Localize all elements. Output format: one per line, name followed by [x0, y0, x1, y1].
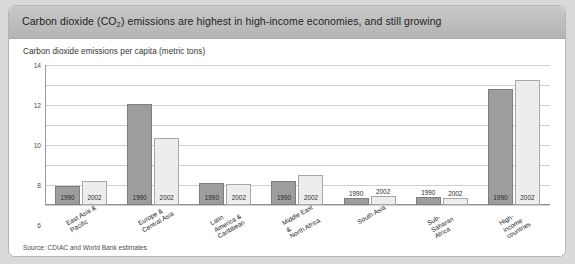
y-axis-tick-label: 8	[37, 182, 41, 189]
bar-2002[interactable]: 2002	[515, 80, 540, 205]
bar-2002[interactable]: 2002	[298, 175, 323, 205]
bar-1990[interactable]: 1990	[127, 104, 152, 205]
plot-area: 02468101214 1990200219902002199020021990…	[45, 65, 550, 205]
bar-1990[interactable]: 1990	[271, 181, 296, 205]
x-axis-label-cell: Middle East & North Africa	[261, 209, 333, 251]
chart-subtitle: Carbon dioxide emissions per capita (met…	[23, 47, 205, 56]
y-axis-tick-label: 12	[34, 102, 41, 109]
x-axis-category-label: East Asia & Pacific	[65, 202, 104, 233]
bar-series-container: 1990200219902002199020021990200219902002…	[45, 65, 550, 205]
bar-value-label: 1990	[60, 195, 74, 204]
page-title-text-before: Carbon dioxide (CO	[22, 15, 117, 27]
bar-group: 19902002	[117, 65, 189, 205]
gridline: 0	[45, 205, 550, 206]
bar-value-label: 1990	[205, 195, 219, 204]
y-axis-tick-label: 6	[37, 222, 41, 229]
screenshot-frame: Carbon dioxide (CO2) emissions are highe…	[0, 0, 575, 264]
x-axis-category-label: Middle East & North Africa	[281, 202, 324, 240]
chart-card: Carbon dioxide (CO2) emissions are highe…	[8, 5, 566, 257]
card-header: Carbon dioxide (CO2) emissions are highe…	[9, 6, 565, 39]
x-axis-label-cell: High-income countries	[478, 209, 550, 251]
bar-value-label: 1990	[421, 190, 435, 198]
page-title: Carbon dioxide (CO2) emissions are highe…	[22, 15, 442, 29]
bar-1990[interactable]: 1990	[199, 183, 224, 205]
bar-2002[interactable]: 2002	[82, 181, 107, 205]
bar-group: 19902002	[406, 65, 478, 205]
card-body: Carbon dioxide emissions per capita (met…	[9, 39, 565, 257]
x-axis-category-label: South Asia	[356, 204, 387, 226]
bar-group: 19902002	[334, 65, 406, 205]
bar-value-label: 1990	[277, 195, 291, 204]
x-axis-label-cell: South Asia	[334, 209, 406, 251]
bar-1990[interactable]: 1990	[344, 198, 369, 205]
bar-value-label: 1990	[133, 195, 147, 204]
x-axis-category-label: Europe & Central Asia	[137, 202, 176, 233]
bar-1990[interactable]: 1990	[488, 89, 513, 205]
bar-1990[interactable]: 1990	[416, 197, 441, 205]
x-axis-category-label: High-income countries	[498, 202, 541, 240]
y-axis-tick-label: 10	[34, 142, 41, 149]
bar-value-label: 1990	[349, 191, 363, 199]
source-note: Source: CDIAC and World Bank estimates	[23, 244, 147, 251]
bar-group: 19902002	[261, 65, 333, 205]
x-axis-category-label: Latin America & Caribbean	[209, 202, 252, 240]
x-axis-category-label: Sub-Saharan Africa	[426, 202, 469, 240]
page-title-text-after: ) emissions are highest in high-income e…	[121, 15, 442, 27]
x-axis-label-cell: Sub-Saharan Africa	[406, 209, 478, 251]
bar-group: 19902002	[45, 65, 117, 205]
bar-group: 19902002	[478, 65, 550, 205]
bar-group: 19902002	[189, 65, 261, 205]
bar-value-label: 2002	[448, 191, 462, 199]
bar-value-label: 2002	[376, 189, 390, 197]
bar-1990[interactable]: 1990	[55, 186, 80, 205]
bar-2002[interactable]: 2002	[154, 138, 179, 205]
x-axis-label-cell: Latin America & Caribbean	[189, 209, 261, 251]
bar-value-label: 1990	[493, 195, 507, 204]
y-axis-tick-label: 14	[34, 62, 41, 69]
